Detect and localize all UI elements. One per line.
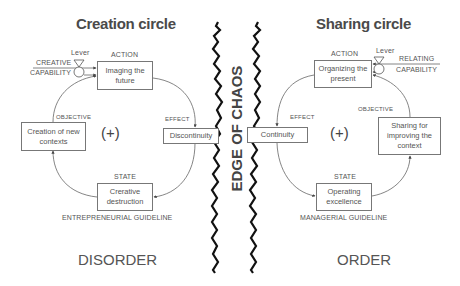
managerial-guideline-label: MANAGERIAL GUIDELINE: [300, 214, 387, 221]
organizing-the-present-box: Organizing the present: [314, 60, 372, 88]
entrepreneurial-guideline-label: ENTREPRENEURIAL GUIDELINE: [62, 214, 172, 221]
discontinuity-box: Discontinuity: [163, 128, 219, 144]
continuity-box: Continuity: [247, 127, 308, 143]
creation-objective-label: OBJECTIVE: [56, 114, 91, 120]
creative-input-label-1: CREATIVE: [36, 59, 71, 66]
creation-effect-label: EFFECT: [165, 116, 190, 122]
relating-lever-label: Lever: [376, 47, 395, 54]
sharing-loop-sign: (+): [330, 124, 349, 141]
order-label: ORDER: [337, 251, 391, 268]
creation-circle-title: Creation circle: [76, 15, 176, 32]
relating-lever-icon: [374, 57, 384, 74]
crerative-destruction-box: Crerative destruction: [97, 183, 153, 211]
sharing-action-label: ACTION: [331, 50, 358, 57]
sharing-effect-label: EFFECT: [290, 114, 315, 120]
relating-input-label-1: RELATING: [399, 55, 434, 62]
sharing-objective-label: OBJECTIVE: [358, 106, 393, 112]
sharing-circle-title: Sharing circle: [316, 15, 411, 32]
creation-loop-sign: (+): [101, 124, 120, 141]
sharing-for-improving-the-context-box: Sharing for improving the context: [378, 117, 441, 155]
creation-of-new-contexts-box: Creation of new contexts: [21, 122, 86, 151]
relating-input-label-2: CAPABILITY: [396, 66, 437, 73]
creative-input-label-2: CAPABILITY: [30, 69, 71, 76]
disorder-label: DISORDER: [78, 251, 157, 268]
imaging-the-future-box: Imaging the future: [97, 61, 153, 90]
creative-lever-label: Lever: [71, 49, 90, 56]
creative-lever-icon: [74, 60, 84, 77]
left-wavy-edge: [212, 22, 222, 273]
creation-action-label: ACTION: [111, 51, 138, 58]
edge-of-chaos-label: EDGE OF CHAOS: [228, 92, 245, 192]
right-wavy-edge: [250, 22, 260, 273]
operating-excellence-box: Operating excellence: [316, 183, 372, 211]
creation-state-label: STATE: [114, 173, 136, 180]
sharing-state-label: STATE: [334, 173, 356, 180]
